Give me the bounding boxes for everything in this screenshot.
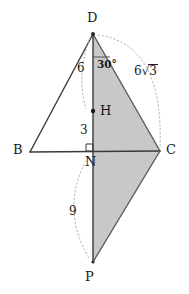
- vertex-label-H: H: [100, 104, 111, 117]
- measure-label-HN: 3: [80, 124, 88, 136]
- edge-BC: [30, 151, 160, 152]
- radicand: 3: [148, 64, 158, 77]
- measure-label-NP: 9: [69, 205, 77, 217]
- point-marker-P: [91, 260, 94, 263]
- vertex-label-B: B: [13, 143, 23, 156]
- point-marker-H: [91, 109, 95, 113]
- angle-label-30-degrees: 30°: [97, 59, 117, 70]
- geometry-canvas: [0, 0, 189, 294]
- right-angle-at-N-icon: [86, 144, 93, 151]
- measure-label-DH: 6: [77, 62, 85, 74]
- point-marker-D: [91, 32, 95, 36]
- sqrt-icon: √3: [142, 64, 158, 77]
- vertex-label-D: D: [87, 11, 97, 24]
- vertex-label-N: N: [85, 155, 96, 168]
- geometry-figure: D B C N H P 6 3 9 30° 6√3: [0, 0, 189, 294]
- measure-label-DC: 6√3: [134, 64, 158, 77]
- vertex-label-P: P: [85, 270, 94, 283]
- vertex-label-C: C: [166, 143, 176, 156]
- radical-coefficient: 6: [134, 64, 142, 78]
